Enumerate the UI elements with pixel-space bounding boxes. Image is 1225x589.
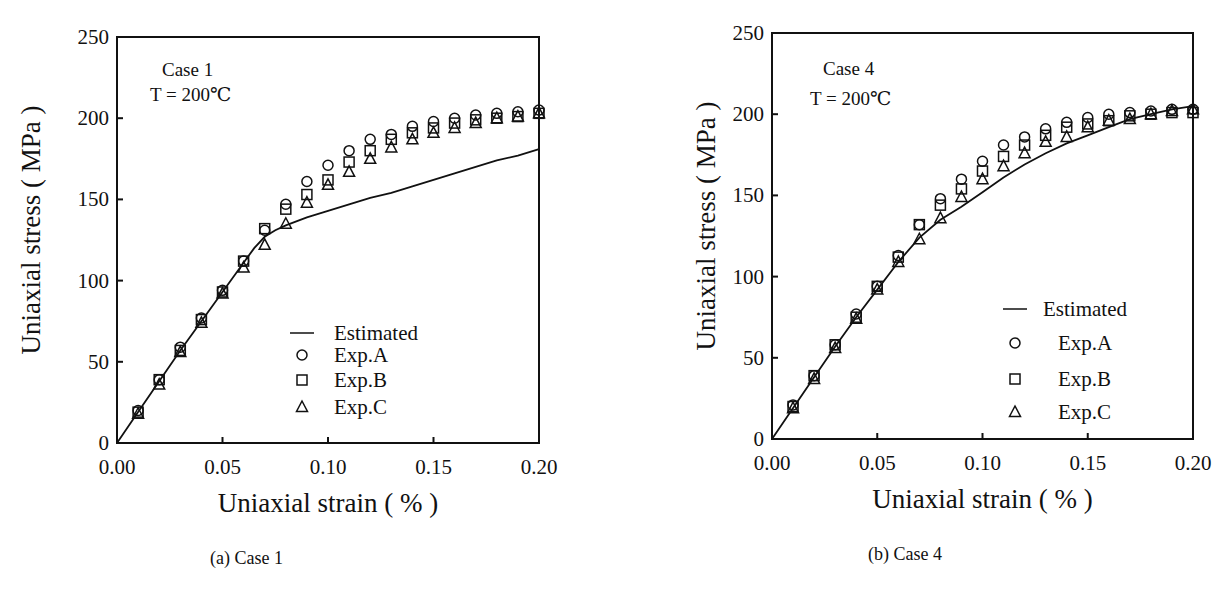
y-tick-label: 250	[733, 21, 765, 45]
legend-label: Estimated	[334, 321, 418, 345]
temperature-annotation: T = 200℃	[150, 84, 231, 105]
legend-label: Estimated	[1043, 297, 1127, 321]
x-tick-label: 0.15	[1069, 451, 1106, 475]
y-tick-label: 200	[78, 106, 110, 130]
circle-marker	[302, 177, 312, 187]
circle-marker	[344, 146, 354, 156]
legend-square-icon	[1010, 374, 1020, 384]
y-tick-label: 50	[88, 350, 109, 374]
legend-label: Exp.A	[1058, 331, 1113, 355]
y-axis-title: Uniaxial stress ( MPa )	[16, 106, 46, 355]
legend: EstimatedExp.AExp.BExp.C	[290, 321, 418, 419]
triangle-marker	[323, 179, 334, 190]
circle-marker	[407, 121, 417, 131]
x-tick-label: 0.15	[415, 455, 452, 479]
case-annotation: Case 4	[823, 58, 875, 79]
circle-marker	[956, 174, 966, 184]
chart-plot-case-4: 0501001502002500.000.050.100.150.20Uniax…	[612, 0, 1225, 589]
x-tick-label: 0.20	[1175, 451, 1212, 475]
legend-circle-icon	[1010, 338, 1020, 348]
x-tick-label: 0.05	[859, 451, 896, 475]
legend-label: Exp.C	[1058, 400, 1111, 424]
triangle-marker	[956, 191, 967, 202]
series-estimated	[117, 149, 539, 443]
x-axis-title: Uniaxial strain ( % )	[218, 488, 438, 518]
estimated-curve	[117, 149, 539, 443]
x-tick-label: 0.05	[204, 455, 241, 479]
chart-panel-case-4: 0501001502002500.000.050.100.150.20Uniax…	[612, 0, 1225, 589]
circle-marker	[1041, 124, 1051, 134]
figure-caption-b: (b) Case 4	[868, 544, 942, 565]
chart-plot-case-1: 0501001502002500.000.050.100.150.20Uniax…	[0, 0, 612, 589]
legend-square-icon	[297, 375, 307, 385]
series-exp-a	[788, 104, 1198, 410]
x-tick-label: 0.20	[521, 455, 558, 479]
series-exp-b	[788, 108, 1198, 412]
y-tick-label: 0	[99, 431, 110, 455]
x-tick-label: 0.00	[754, 451, 791, 475]
chart-panel-case-1: 0501001502002500.000.050.100.150.20Uniax…	[0, 0, 612, 589]
circle-marker	[935, 194, 945, 204]
legend-label: Exp.C	[334, 395, 387, 419]
triangle-marker	[449, 122, 460, 133]
circle-marker	[978, 156, 988, 166]
y-tick-label: 250	[78, 25, 110, 49]
y-axis-title: Uniaxial stress ( MPa )	[691, 102, 721, 351]
triangle-marker	[977, 173, 988, 184]
legend-label: Exp.B	[1058, 367, 1111, 391]
case-annotation: Case 1	[162, 59, 213, 80]
circle-marker	[429, 116, 439, 126]
y-tick-label: 150	[78, 187, 110, 211]
circle-marker	[323, 160, 333, 170]
circle-marker	[999, 140, 1009, 150]
triangle-marker	[1019, 147, 1030, 158]
legend-triangle-icon	[1010, 406, 1021, 417]
circle-marker	[365, 134, 375, 144]
figure-caption-a: (a) Case 1	[210, 548, 283, 569]
triangle-marker	[301, 197, 312, 208]
circle-marker	[914, 220, 924, 230]
triangle-marker	[365, 153, 376, 164]
x-tick-label: 0.10	[964, 451, 1001, 475]
triangle-marker	[386, 141, 397, 152]
series-exp-c	[788, 103, 1199, 412]
triangle-marker	[428, 127, 439, 137]
y-tick-label: 100	[78, 269, 110, 293]
x-tick-label: 0.10	[310, 455, 347, 479]
x-axis-title: Uniaxial strain ( % )	[872, 484, 1092, 514]
legend-circle-icon	[297, 350, 307, 360]
y-tick-label: 100	[733, 265, 765, 289]
temperature-annotation: T = 200℃	[810, 88, 891, 109]
legend-label: Exp.A	[334, 343, 389, 367]
y-tick-label: 150	[733, 183, 765, 207]
legend: EstimatedExp.AExp.BExp.C	[1003, 297, 1127, 424]
y-tick-label: 0	[754, 427, 765, 451]
triangle-marker	[1082, 121, 1093, 132]
y-tick-label: 50	[743, 346, 764, 370]
y-tick-label: 200	[733, 102, 765, 126]
legend-label: Exp.B	[334, 368, 387, 392]
legend-triangle-icon	[297, 401, 308, 412]
x-tick-label: 0.00	[99, 455, 136, 479]
